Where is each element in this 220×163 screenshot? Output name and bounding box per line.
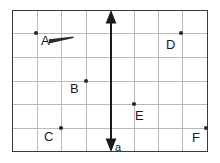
point-dot-C[interactable] <box>59 126 63 130</box>
point-label-A: A <box>41 33 50 48</box>
point-label-C: C <box>44 129 53 144</box>
point-label-F: F <box>192 130 200 145</box>
point-label-D: D <box>166 37 175 52</box>
geometry-figure: A B C D E F a <box>0 0 220 163</box>
point-label-B: B <box>70 81 79 96</box>
point-dot-E[interactable] <box>132 102 136 106</box>
figure-canvas: A B C D E F a <box>0 0 220 163</box>
point-dot-D[interactable] <box>179 31 183 35</box>
point-dot-F[interactable] <box>204 126 208 130</box>
point-label-E: E <box>135 108 144 123</box>
point-dot-A[interactable] <box>34 31 38 35</box>
point-dot-B[interactable] <box>84 79 88 83</box>
axis-a-label: a <box>115 141 122 153</box>
